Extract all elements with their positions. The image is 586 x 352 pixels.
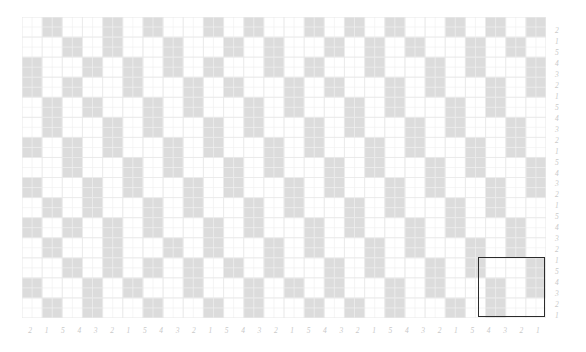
heatmap-cell xyxy=(163,258,183,278)
x-tick-label: 4 xyxy=(241,327,245,335)
heatmap-cell xyxy=(103,278,123,298)
heatmap-cell xyxy=(203,57,223,77)
heatmap-cell xyxy=(62,198,82,218)
x-tick-label: 5 xyxy=(307,327,311,335)
heatmap-cell xyxy=(103,157,123,177)
x-tick-label: 5 xyxy=(61,327,65,335)
y-tick-label: 5 xyxy=(555,214,559,222)
heatmap-cell xyxy=(425,77,445,97)
heatmap-cell xyxy=(42,218,62,238)
heatmap-plot-area[interactable] xyxy=(22,17,546,318)
selection-rectangle[interactable] xyxy=(478,257,545,317)
x-tick-label: 4 xyxy=(405,327,409,335)
y-tick-label: 4 xyxy=(555,60,559,68)
heatmap-cell xyxy=(324,238,344,258)
heatmap-cell xyxy=(405,238,425,258)
heatmap-cell xyxy=(284,198,304,218)
heatmap-cell xyxy=(22,57,42,77)
heatmap-cell xyxy=(183,278,203,298)
heatmap-cell xyxy=(324,77,344,97)
y-tick-label: 2 xyxy=(555,192,559,200)
heatmap-cell xyxy=(506,218,526,238)
heatmap-cell xyxy=(123,137,143,157)
x-tick-label: 3 xyxy=(503,327,507,335)
heatmap-cell xyxy=(324,258,344,278)
x-tick-label: 2 xyxy=(520,327,524,335)
heatmap-cell xyxy=(62,57,82,77)
figure-canvas: 21543215432154321543215432154321 2154321… xyxy=(0,0,586,352)
heatmap-cell xyxy=(405,157,425,177)
heatmap-cell xyxy=(526,77,546,97)
heatmap-cell xyxy=(203,218,223,238)
heatmap-cell xyxy=(465,238,485,258)
heatmap-cell xyxy=(203,157,223,177)
heatmap-cell xyxy=(304,97,324,117)
heatmap-cell xyxy=(143,218,163,238)
heatmap-cell xyxy=(304,17,324,37)
heatmap-cell xyxy=(143,17,163,37)
heatmap-cell xyxy=(486,57,506,77)
heatmap-cell xyxy=(123,157,143,177)
heatmap-cell xyxy=(526,137,546,157)
heatmap-cell xyxy=(264,57,284,77)
heatmap-cell xyxy=(103,17,123,37)
heatmap-cell xyxy=(123,198,143,218)
x-tick-label: 2 xyxy=(192,327,196,335)
y-tick-label: 2 xyxy=(555,27,559,35)
heatmap-cell xyxy=(163,278,183,298)
heatmap-cell xyxy=(183,77,203,97)
heatmap-cell xyxy=(365,57,385,77)
heatmap-cell xyxy=(264,178,284,198)
heatmap-cell xyxy=(123,57,143,77)
heatmap-cell xyxy=(284,298,304,318)
heatmap-cell xyxy=(506,97,526,117)
heatmap-cell xyxy=(405,37,425,57)
x-tick-label: 2 xyxy=(438,327,442,335)
heatmap-cell xyxy=(284,97,304,117)
heatmap-cell xyxy=(264,37,284,57)
heatmap-cell xyxy=(304,258,324,278)
heatmap-cell xyxy=(324,198,344,218)
y-tick-label: 1 xyxy=(555,148,559,156)
heatmap-cell xyxy=(365,218,385,238)
heatmap-cell xyxy=(365,238,385,258)
heatmap-cell xyxy=(22,218,42,238)
heatmap-cell xyxy=(344,77,364,97)
heatmap-cell xyxy=(224,258,244,278)
y-tick-label: 2 xyxy=(555,137,559,145)
heatmap-cell xyxy=(22,37,42,57)
heatmap-cell xyxy=(344,258,364,278)
heatmap-cell xyxy=(82,77,102,97)
heatmap-cell xyxy=(163,218,183,238)
heatmap-cell xyxy=(42,238,62,258)
heatmap-cell xyxy=(405,278,425,298)
heatmap-cell xyxy=(425,218,445,238)
heatmap-cell xyxy=(103,137,123,157)
heatmap-cell xyxy=(445,218,465,238)
heatmap-cell xyxy=(445,278,465,298)
heatmap-cell xyxy=(304,278,324,298)
heatmap-cell xyxy=(143,178,163,198)
heatmap-cell xyxy=(123,97,143,117)
heatmap-cell xyxy=(224,298,244,318)
heatmap-cell xyxy=(224,157,244,177)
heatmap-cell xyxy=(163,178,183,198)
heatmap-cell xyxy=(62,218,82,238)
heatmap-cell xyxy=(103,37,123,57)
x-tick-label: 5 xyxy=(143,327,147,335)
heatmap-cell xyxy=(445,77,465,97)
heatmap-cell xyxy=(324,218,344,238)
heatmap-cell xyxy=(224,37,244,57)
y-tick-label: 4 xyxy=(555,279,559,287)
heatmap-cell xyxy=(465,157,485,177)
heatmap-cell xyxy=(425,258,445,278)
y-tick-label: 3 xyxy=(555,236,559,244)
heatmap-cell xyxy=(103,117,123,137)
heatmap-cell xyxy=(344,218,364,238)
heatmap-cell xyxy=(62,37,82,57)
x-tick-label: 2 xyxy=(110,327,114,335)
heatmap-cell xyxy=(163,17,183,37)
heatmap-cell xyxy=(82,37,102,57)
y-tick-label: 5 xyxy=(555,104,559,112)
heatmap-cell xyxy=(365,97,385,117)
